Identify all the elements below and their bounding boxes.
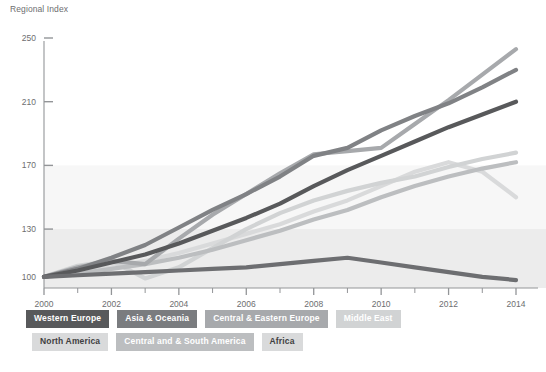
legend-row-primary: Western EuropeAsia & OceaniaCentral & Ea… xyxy=(0,310,546,328)
regional-index-chart: Regional Index 1001301702102502000200220… xyxy=(0,0,546,372)
legend-item-north-america[interactable]: North America xyxy=(32,333,108,351)
legend-item-africa[interactable]: Africa xyxy=(262,333,303,351)
legend-item-central-and-south-america[interactable]: Central and & South America xyxy=(116,333,253,351)
y-axis-tick-label: 130 xyxy=(22,224,36,234)
legend-item-western-europe[interactable]: Western Europe xyxy=(26,310,109,328)
y-axis-tick-label: 170 xyxy=(22,160,36,170)
x-axis-tick-label: 2010 xyxy=(372,299,391,309)
y-axis-tick-label: 250 xyxy=(22,33,36,43)
legend-row-secondary: North AmericaCentral and & South America… xyxy=(0,333,546,351)
chart-legend: Western EuropeAsia & OceaniaCentral & Ea… xyxy=(0,310,546,356)
x-axis-tick-label: 2002 xyxy=(102,299,121,309)
legend-item-asia-oceania[interactable]: Asia & Oceania xyxy=(117,310,197,328)
x-axis-tick-label: 2006 xyxy=(237,299,256,309)
x-axis-tick-label: 2000 xyxy=(35,299,54,309)
x-axis-tick-label: 2004 xyxy=(169,299,188,309)
x-axis-tick-label: 2008 xyxy=(304,299,323,309)
legend-item-middle-east[interactable]: Middle East xyxy=(336,310,401,328)
y-axis-tick-label: 210 xyxy=(22,97,36,107)
y-axis-tick-label: 100 xyxy=(22,272,36,282)
legend-item-central-eastern-europe[interactable]: Central & Eastern Europe xyxy=(205,310,328,328)
x-axis-tick-label: 2012 xyxy=(439,299,458,309)
x-axis-tick-label: 2014 xyxy=(507,299,526,309)
